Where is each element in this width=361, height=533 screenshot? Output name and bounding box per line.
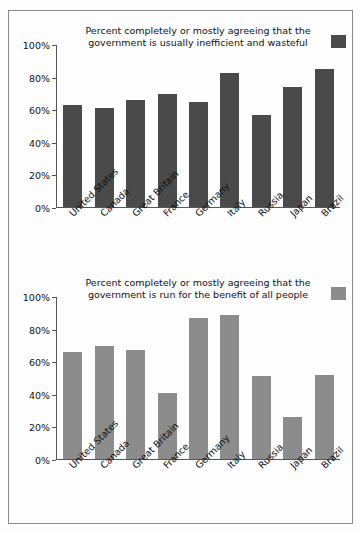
y-tick-label: 100% — [23, 40, 50, 51]
chart-title-bottom-line1: Percent completely or mostly agreeing th… — [85, 277, 310, 288]
bar-slot — [309, 297, 340, 459]
y-tick-mark — [52, 297, 56, 298]
y-tick-label: 100% — [23, 292, 50, 303]
chart-panel-inefficient-wasteful: Percent completely or mostly agreeing th… — [9, 13, 352, 261]
y-tick-mark — [52, 208, 56, 209]
y-tick-mark — [52, 175, 56, 176]
chart-title-top-line1: Percent completely or mostly agreeing th… — [85, 25, 310, 36]
bar-slot — [246, 297, 277, 459]
bar[interactable] — [252, 115, 271, 207]
bar[interactable] — [283, 87, 302, 207]
bar-slot — [120, 45, 151, 207]
y-tick-label: 20% — [29, 170, 50, 181]
bar-slot — [57, 297, 88, 459]
y-tick-label: 20% — [29, 422, 50, 433]
y-tick-mark — [52, 330, 56, 331]
y-tick-mark — [52, 427, 56, 428]
bar[interactable] — [63, 105, 82, 207]
bar-slot — [120, 297, 151, 459]
chart-frame-border: Percent completely or mostly agreeing th… — [8, 10, 353, 524]
bar[interactable] — [189, 318, 208, 459]
bar-slot — [214, 297, 245, 459]
bar[interactable] — [252, 376, 271, 459]
bar-slot — [183, 297, 214, 459]
bar[interactable] — [315, 375, 334, 459]
y-tick-mark — [52, 78, 56, 79]
bar-slot — [246, 45, 277, 207]
bar[interactable] — [315, 69, 334, 207]
y-tick-mark — [52, 45, 56, 46]
y-tick-label: 40% — [29, 137, 50, 148]
chart-panel-benefit-all-people: Percent completely or mostly agreeing th… — [9, 265, 352, 513]
y-tick-mark — [52, 395, 56, 396]
y-tick-mark — [52, 362, 56, 363]
chart-page: Percent completely or mostly agreeing th… — [0, 0, 361, 533]
y-tick-mark — [52, 460, 56, 461]
y-tick-mark — [52, 143, 56, 144]
bar-slot — [214, 45, 245, 207]
bar-slot — [277, 45, 308, 207]
y-tick-label: 0% — [35, 203, 50, 214]
y-tick-label: 80% — [29, 72, 50, 83]
y-tick-label: 60% — [29, 105, 50, 116]
bar[interactable] — [63, 352, 82, 459]
y-tick-label: 40% — [29, 389, 50, 400]
y-tick-label: 0% — [35, 455, 50, 466]
bar-slot — [183, 45, 214, 207]
x-axis-labels-bottom: United StatesCanadaGreat BritainFranceGe… — [57, 461, 341, 513]
bar-slot — [57, 45, 88, 207]
y-tick-label: 80% — [29, 324, 50, 335]
bar[interactable] — [189, 102, 208, 207]
bar-slot — [277, 297, 308, 459]
bar-slot — [309, 45, 340, 207]
y-tick-label: 60% — [29, 357, 50, 368]
x-axis-labels-top: United StatesCanadaGreat BritainFranceGe… — [57, 209, 341, 261]
y-tick-mark — [52, 110, 56, 111]
